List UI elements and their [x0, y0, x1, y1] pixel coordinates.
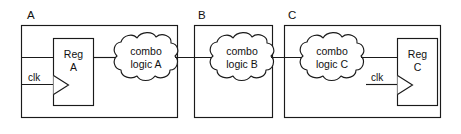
clk-label-reg-a: clk — [28, 72, 41, 83]
reg-c-label-line2: C — [414, 61, 422, 73]
reg-a-label-line1: Reg — [64, 48, 83, 60]
partition-label-b: B — [198, 9, 206, 21]
combo-logic-c-label-line1: combo — [316, 45, 348, 57]
partition-label-a: A — [27, 9, 35, 21]
reg-c-label-line1: Reg — [408, 48, 427, 60]
logic-partition-diagram: A clk Reg A combo logic A B combo logic … — [0, 0, 461, 134]
combo-logic-b-label-line1: combo — [226, 45, 258, 57]
combo-logic-a-label-line2: logic A — [131, 58, 162, 70]
combo-logic-b-label-line2: logic B — [226, 58, 258, 70]
reg-a-label-line2: A — [70, 61, 77, 73]
diagram-canvas: A clk Reg A combo logic A B combo logic … — [0, 0, 461, 134]
partition-label-c: C — [288, 9, 296, 21]
clk-label-reg-c: clk — [371, 72, 384, 83]
combo-logic-a-label-line1: combo — [130, 45, 162, 57]
combo-logic-c-label-line2: logic C — [316, 58, 349, 70]
